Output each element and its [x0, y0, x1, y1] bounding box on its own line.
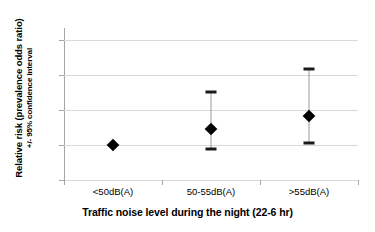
y-axis-title-line-1: Relative risk (prevalence odds ratio)	[14, 18, 25, 177]
x-tick-label-0: <50dB(A)	[93, 186, 133, 197]
y-axis-title-line-2: +/- 95% confidence interval	[25, 18, 34, 177]
x-tick-mark-3	[358, 180, 359, 185]
gridline-y-3	[64, 75, 358, 76]
errorbar-cap-2-lower	[304, 142, 315, 145]
gridline-y-0	[64, 180, 358, 181]
errorbar-cap-2-upper	[304, 67, 315, 70]
x-tick-mark-1	[162, 180, 163, 185]
errorbar-line-2	[309, 69, 310, 144]
errorbar-cap-1-upper	[206, 91, 217, 94]
data-point-marker-0	[107, 139, 120, 152]
x-tick-label-2: >55dB(A)	[289, 186, 329, 197]
x-tick-mark-2	[260, 180, 261, 185]
errorbar-line-1	[211, 92, 212, 149]
data-point-marker-2	[303, 109, 316, 122]
chart-figure: Relative risk (prevalence odds ratio) +/…	[0, 0, 375, 232]
x-axis-title: Traffic noise level during the night (22…	[0, 206, 375, 218]
y-axis-title: Relative risk (prevalence odds ratio) +/…	[0, 0, 48, 196]
x-tick-mark-0	[64, 180, 65, 185]
x-tick-label-1: 50-55dB(A)	[187, 186, 236, 197]
data-point-marker-1	[205, 122, 218, 135]
plot-area	[64, 30, 358, 180]
gridline-y-4	[64, 40, 358, 41]
errorbar-cap-1-lower	[206, 147, 217, 150]
